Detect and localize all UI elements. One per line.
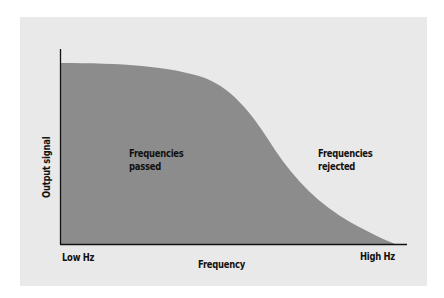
x-axis-label: Frequency [198, 258, 245, 271]
rejected-annotation: Frequencies rejected [318, 147, 372, 173]
rejected-line2: rejected [318, 160, 372, 173]
passed-line2: passed [129, 160, 183, 173]
passed-annotation: Frequencies passed [129, 147, 183, 173]
x-tick-low: Low Hz [62, 251, 94, 264]
rejected-line1: Frequencies [318, 147, 372, 160]
passed-line1: Frequencies [129, 147, 183, 160]
x-tick-high: High Hz [360, 250, 395, 263]
y-axis-label: Output signal [40, 137, 53, 198]
